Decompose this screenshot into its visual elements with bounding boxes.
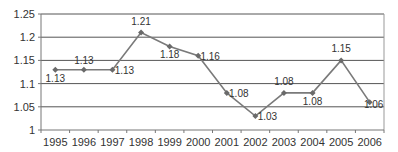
data-label: 1.15 [331, 43, 351, 54]
x-axis-tick-labels: 1995199619971998199920002001200220032004… [43, 136, 382, 148]
x-tick-label: 2000 [186, 136, 210, 148]
data-label: 1.21 [131, 16, 151, 27]
data-point-marker [81, 67, 87, 73]
x-tick-label: 1997 [100, 136, 124, 148]
x-tick-label: 2003 [272, 136, 296, 148]
x-tick-label: 2006 [357, 136, 381, 148]
chart-svg: 11.051.11.151.21.25 19951996199719981999… [0, 0, 398, 152]
y-tick-label: 1.15 [14, 54, 35, 66]
x-tick-label: 2002 [243, 136, 267, 148]
x-tick-label: 2005 [329, 136, 353, 148]
data-label: 1.13 [46, 73, 66, 84]
series-line [55, 33, 369, 117]
data-label: 1.18 [160, 49, 180, 60]
data-label: 1.08 [303, 96, 323, 107]
x-tick-label: 1998 [129, 136, 153, 148]
data-series [52, 30, 372, 120]
data-label: 1.13 [74, 55, 94, 66]
data-label: 1.03 [258, 111, 278, 122]
y-tick-label: 1.1 [20, 78, 35, 90]
y-axis-tick-labels: 11.051.11.151.21.25 [14, 8, 35, 136]
data-label: 1.13 [115, 65, 135, 76]
data-label: 1.06 [364, 99, 384, 110]
data-label: 1.16 [200, 51, 220, 62]
y-tick-label: 1 [29, 124, 35, 136]
x-tick-label: 1999 [157, 136, 181, 148]
line-chart: 11.051.11.151.21.25 19951996199719981999… [0, 0, 398, 152]
x-tick-label: 1995 [43, 136, 67, 148]
y-tick-label: 1.25 [14, 8, 35, 20]
y-tick-label: 1.05 [14, 101, 35, 113]
data-label: 1.08 [229, 88, 249, 99]
x-tick-label: 1996 [72, 136, 96, 148]
y-tick-label: 1.2 [20, 31, 35, 43]
x-tick-label: 2004 [300, 136, 324, 148]
data-label: 1.08 [274, 76, 294, 87]
x-tick-label: 2001 [215, 136, 239, 148]
